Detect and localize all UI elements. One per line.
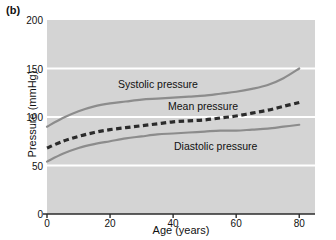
curve-annotation-mean: Mean pressure xyxy=(168,100,238,112)
plot-canvas xyxy=(0,0,336,240)
curve-annotation-diastolic: Diastolic pressure xyxy=(174,140,257,152)
axis-lines-and-ticks xyxy=(43,214,315,218)
figure-panel-b: (b) Pressure (mmHg) Age (years) 05010015… xyxy=(0,0,336,240)
curve-annotation-systolic: Systolic pressure xyxy=(118,78,198,90)
